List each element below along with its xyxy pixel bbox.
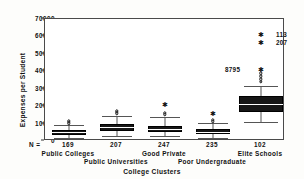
n-value: 102 — [254, 141, 266, 148]
n-value: 235 — [206, 141, 218, 148]
median-line — [196, 132, 230, 133]
whisker-cap — [150, 117, 180, 118]
category-label: Public Colleges — [42, 150, 95, 157]
category-label: Elite Schools — [238, 150, 283, 157]
whisker-cap — [102, 116, 132, 117]
whisker-cap — [54, 138, 84, 139]
x-axis-title: College Clusters — [0, 168, 304, 175]
n-value: 207 — [110, 141, 122, 148]
median-line — [52, 132, 86, 133]
outlier-marker — [259, 80, 262, 83]
case-label: 113 — [276, 30, 287, 37]
case-label: 8795 — [225, 65, 240, 72]
whisker-cap — [198, 123, 228, 124]
whisker-cap — [244, 122, 278, 123]
category-label: Poor Undergraduate — [178, 158, 246, 165]
whisker-cap — [54, 125, 84, 126]
n-value: 247 — [158, 141, 170, 148]
whisker-cap — [102, 136, 132, 137]
whisker-cap — [150, 136, 180, 137]
case-label: 207 — [276, 39, 287, 46]
median-line — [100, 127, 134, 128]
category-label: Good Private — [142, 150, 186, 157]
whisker-cap — [244, 86, 278, 87]
category-label: Public Universities — [84, 158, 148, 165]
y-axis-title: Expenses per Student — [19, 35, 26, 145]
n-prefix-label: N = — [29, 141, 40, 148]
n-value: 169 — [62, 141, 74, 148]
median-line — [148, 129, 182, 130]
boxplot-series: ✱✱✱✱✱ — [45, 19, 283, 139]
median-line — [239, 104, 283, 105]
plot-area: ✱✱✱✱✱ — [44, 18, 284, 140]
boxplot-chart: Expenses per Student 0100002000030000400… — [0, 0, 304, 179]
whisker-cap — [198, 138, 228, 139]
